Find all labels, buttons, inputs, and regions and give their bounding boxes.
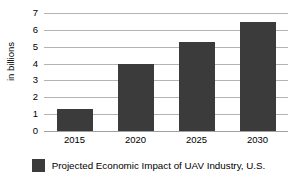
x-axis-tick-label: 2030 xyxy=(227,134,288,145)
x-axis-tick-label: 2025 xyxy=(166,134,227,145)
y-axis-tick-label: 4 xyxy=(26,59,38,68)
gridline xyxy=(44,131,288,132)
y-axis-tick-label: 2 xyxy=(26,92,38,101)
x-axis-tick-label: 2015 xyxy=(44,134,105,145)
bar-chart: in billions 01234567 2015202020252030 Pr… xyxy=(0,0,297,177)
bar xyxy=(240,22,276,131)
y-axis-tick-label: 6 xyxy=(26,25,38,34)
legend-label: Projected Economic Impact of UAV Industr… xyxy=(52,160,266,171)
chart-legend: Projected Economic Impact of UAV Industr… xyxy=(0,156,297,174)
y-axis-tick-label: 3 xyxy=(26,75,38,84)
bar xyxy=(118,64,154,131)
x-axis-tick-label: 2020 xyxy=(105,134,166,145)
legend-swatch-icon xyxy=(32,159,45,172)
y-axis-tick-label: 7 xyxy=(26,8,38,17)
y-axis-tick-label: 1 xyxy=(26,109,38,118)
bar xyxy=(179,42,215,131)
bar xyxy=(57,109,93,131)
y-axis-tick-labels: 01234567 xyxy=(26,13,38,131)
plot-area xyxy=(44,13,288,131)
y-axis-tick-label: 0 xyxy=(26,126,38,135)
y-axis-tick-label: 5 xyxy=(26,42,38,51)
gridline xyxy=(44,13,288,14)
y-axis-title: in billions xyxy=(5,31,16,93)
x-axis-tick-labels: 2015202020252030 xyxy=(44,134,288,148)
